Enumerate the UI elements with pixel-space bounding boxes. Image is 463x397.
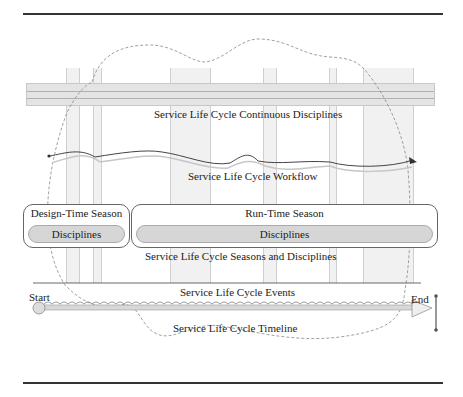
events-label: Service Life Cycle Events [180, 286, 295, 298]
design-time-season-title: Design-Time Season [24, 207, 129, 219]
diagram-curves [0, 0, 463, 397]
workflow-label: Service Life Cycle Workflow [188, 170, 317, 182]
design-time-season: Design-Time Season Disciplines [23, 204, 130, 248]
timeline-label: Service Life Cycle Timeline [173, 322, 297, 334]
design-time-disciplines: Disciplines [28, 225, 125, 243]
run-time-season-title: Run-Time Season [132, 207, 437, 219]
end-label: End [411, 293, 429, 305]
run-time-disciplines: Disciplines [136, 225, 433, 243]
run-time-season: Run-Time Season Disciplines [131, 204, 438, 248]
start-label: Start [29, 291, 50, 303]
seasons-label: Service Life Cycle Seasons and Disciplin… [145, 250, 337, 262]
